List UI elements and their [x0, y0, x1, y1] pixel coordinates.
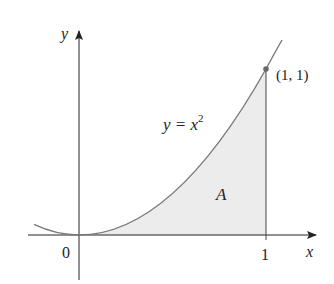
shaded-region-a	[79, 69, 266, 235]
x-tick-1-label: 1	[261, 246, 269, 263]
curve-label-base: y = x	[161, 115, 199, 134]
origin-label: 0	[62, 244, 70, 261]
y-axis-label: y	[59, 25, 69, 43]
point-label: (1, 1)	[276, 67, 309, 84]
curve-label-exponent: 2	[198, 112, 204, 124]
area-under-parabola-diagram: y x 0 1 (1, 1) y = x2 A	[0, 0, 334, 284]
curve-label: y = x2	[161, 112, 204, 134]
x-axis-label: x	[305, 243, 313, 260]
region-a-label: A	[215, 185, 227, 204]
point-1-1	[263, 66, 269, 72]
